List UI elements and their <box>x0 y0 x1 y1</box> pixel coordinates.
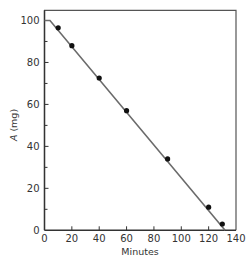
plot-border <box>45 10 237 230</box>
x-axis-ticks: 020406080100120140 <box>41 226 245 244</box>
data-point <box>97 75 102 80</box>
x-tick-label: 20 <box>65 233 78 244</box>
data-point <box>165 156 170 161</box>
y-tick-label: 100 <box>20 15 39 26</box>
data-point <box>69 43 74 48</box>
x-tick-label: 60 <box>120 233 133 244</box>
y-tick-label: 20 <box>27 183 40 194</box>
data-point <box>206 205 211 210</box>
x-tick-label: 120 <box>199 233 218 244</box>
x-tick-label: 40 <box>93 233 106 244</box>
y-axis-label-unit: (mg) <box>8 109 19 135</box>
data-point <box>124 108 129 113</box>
x-tick-label: 140 <box>226 233 245 244</box>
fit-line <box>45 21 226 231</box>
chart: 020406080100120140 020406080100 Minutes … <box>0 0 251 266</box>
y-axis-label-var: A <box>8 135 19 143</box>
data-point <box>220 221 225 226</box>
data-points <box>56 25 225 226</box>
y-tick-label: 0 <box>33 225 39 236</box>
plot-frame <box>45 10 237 230</box>
y-tick-label: 80 <box>27 57 40 68</box>
x-tick-label: 100 <box>172 233 191 244</box>
x-tick-label: 0 <box>41 233 47 244</box>
y-tick-label: 40 <box>27 141 40 152</box>
data-point <box>56 25 61 30</box>
y-axis-label: A (mg) <box>8 109 19 142</box>
x-axis-label: Minutes <box>121 246 158 257</box>
regression-line <box>45 21 226 231</box>
x-tick-label: 80 <box>148 233 161 244</box>
y-tick-label: 60 <box>27 99 40 110</box>
